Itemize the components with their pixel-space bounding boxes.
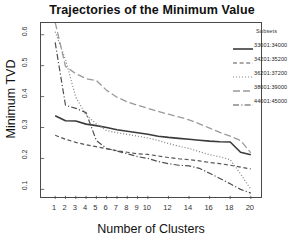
x-tick-label: 16 (199, 203, 219, 212)
y-tick-label: 0.6 (14, 28, 36, 35)
series-line (55, 42, 251, 193)
y-tick-text: 0.5 (21, 57, 28, 67)
x-tick-label: 18 (219, 203, 239, 212)
series-canvas (41, 23, 263, 199)
y-tick-label: 0.1 (14, 182, 36, 189)
legend-key-swatch (232, 40, 254, 50)
y-tick-text: 0.3 (21, 119, 28, 129)
y-tick-text: 0.6 (21, 26, 28, 36)
y-tick-label: 0.5 (14, 59, 36, 66)
y-tick-label: 0.3 (14, 121, 36, 128)
chart-root: Trajectories of the Minimum Value Minimu… (0, 0, 304, 243)
legend-key-swatch (232, 96, 254, 106)
legend-title: Subsets (256, 28, 302, 34)
legend-entry: 36201:37200 (232, 66, 302, 80)
legend-entry-label: 38001:39000 (254, 84, 287, 90)
legend-entry: 33001:34000 (232, 38, 302, 52)
legend-entries: 33001:3400034201:3520036201:3720038001:3… (232, 38, 302, 108)
y-tick-label: 0.2 (14, 151, 36, 158)
y-tick-text: 0.1 (21, 181, 28, 191)
legend-entry-label: 44001:45000 (254, 98, 287, 104)
y-tick-label: 0.4 (14, 90, 36, 97)
legend-key-swatch (232, 54, 254, 64)
legend-entry: 34201:35200 (232, 52, 302, 66)
x-tick-label: 20 (240, 203, 260, 212)
y-tick-text: 0.4 (21, 88, 28, 98)
plot-area (40, 22, 262, 198)
legend-entry-label: 34201:35200 (254, 56, 287, 62)
legend-key-swatch (232, 82, 254, 92)
legend-entry: 38001:39000 (232, 80, 302, 94)
legend-entry-label: 33001:34000 (254, 42, 287, 48)
legend-entry: 44001:45000 (232, 94, 302, 108)
legend-entry-label: 36201:37200 (254, 70, 287, 76)
legend-key-swatch (232, 68, 254, 78)
series-line (55, 135, 251, 169)
chart-title: Trajectories of the Minimum Value (0, 3, 304, 17)
x-axis-title: Number of Clusters (40, 222, 262, 236)
x-tick-label: 10 (137, 203, 157, 212)
x-tick-label: 12 (157, 203, 177, 212)
x-tick-label: 14 (178, 203, 198, 212)
legend: Subsets 33001:3400034201:3520036201:3720… (232, 28, 302, 108)
series-line (55, 23, 251, 153)
y-tick-text: 0.2 (21, 150, 28, 160)
axis-ticks (41, 35, 251, 199)
series-line (55, 116, 251, 155)
